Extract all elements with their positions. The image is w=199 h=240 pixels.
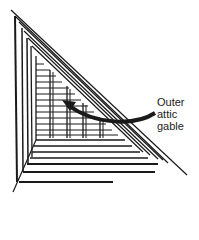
label-line-1: Outer bbox=[157, 96, 185, 108]
label-line-3: gable bbox=[157, 120, 185, 132]
gable-label: Outer attic gable bbox=[157, 96, 185, 132]
label-line-2: attic bbox=[157, 108, 185, 120]
